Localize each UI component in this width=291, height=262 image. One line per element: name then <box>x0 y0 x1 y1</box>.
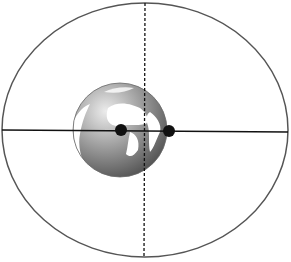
diagram-canvas <box>0 0 291 262</box>
focus-point-2 <box>163 125 175 137</box>
orbit-diagram <box>0 0 291 262</box>
minor-axis-line <box>144 3 145 257</box>
focus-point-1 <box>115 124 127 136</box>
